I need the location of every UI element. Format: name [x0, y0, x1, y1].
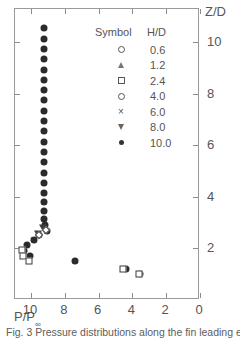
legend-item: 0.6: [95, 42, 193, 58]
data-point: [40, 45, 47, 52]
y-tick-label: 6: [207, 137, 214, 152]
y-tick: [15, 94, 20, 95]
y-tick-right: [193, 197, 198, 198]
data-point: [40, 66, 47, 73]
legend-header-value: H/D: [147, 26, 187, 38]
x-tick-top: [166, 9, 167, 14]
data-point: [40, 159, 47, 166]
data-point: [120, 265, 127, 272]
x-tick-label: 6: [94, 302, 101, 317]
legend-symbol-square-open-icon: [95, 77, 147, 84]
legend-header: Symbol H/D: [95, 26, 193, 38]
data-point: [40, 76, 47, 83]
x-tick-label: 8: [60, 302, 67, 317]
data-point: [40, 179, 47, 186]
x-tick: [65, 293, 66, 298]
x-tick-top: [132, 9, 133, 14]
x-tick-top: [200, 9, 201, 14]
legend-symbol-circle-open-icon: [95, 46, 147, 53]
legend-value: 8.0: [147, 121, 190, 133]
x-tick-label: 4: [128, 302, 135, 317]
data-point: ×: [30, 235, 35, 244]
legend-value: 0.6: [147, 44, 190, 56]
figure-caption: Fig. 3 Pressure distributions along the …: [6, 326, 240, 338]
legend-value: 2.4: [147, 75, 190, 87]
x-tick-label: 0: [195, 302, 202, 317]
data-point: [40, 56, 47, 63]
legend-value: 6.0: [147, 106, 190, 118]
y-tick-right: [193, 145, 198, 146]
legend-header-symbol: Symbol: [95, 26, 147, 38]
data-point: [40, 208, 47, 215]
data-point: [40, 148, 47, 155]
x-tick-top: [65, 9, 66, 14]
y-tick-right: [193, 42, 198, 43]
data-point: [40, 118, 47, 125]
x-tick-label: 2: [162, 302, 169, 317]
data-point: [40, 138, 47, 145]
data-point: [40, 97, 47, 104]
data-point: [40, 25, 47, 32]
legend-item: 10.0: [95, 135, 193, 151]
legend-value: 1.2: [147, 59, 190, 71]
data-point: [40, 107, 47, 114]
x-tick-label: 10: [23, 302, 37, 317]
y-tick-label: 8: [207, 85, 214, 100]
y-tick-label: 10: [207, 34, 221, 49]
data-point: [40, 169, 47, 176]
data-point: [26, 257, 33, 264]
legend-item: 2.4: [95, 73, 193, 89]
x-tick: [132, 293, 133, 298]
y-tick: [15, 42, 20, 43]
data-point: [40, 35, 47, 42]
y-tick: [15, 197, 20, 198]
legend-value: 10.0: [147, 137, 190, 149]
legend-rows: 0.61.22.44.0×6.08.010.0: [95, 42, 193, 151]
x-tick: [200, 293, 201, 298]
data-point: [40, 190, 47, 197]
legend-symbol-circle-filled-icon: [95, 140, 147, 145]
legend: Symbol H/D 0.61.22.44.0×6.08.010.0: [95, 26, 193, 151]
data-point: [71, 258, 78, 265]
y-tick-right: [193, 94, 198, 95]
x-tick: [31, 293, 32, 298]
y-tick-label: 2: [207, 240, 214, 255]
y-tick-right: [193, 248, 198, 249]
x-tick-top: [31, 9, 32, 14]
data-point: [40, 128, 47, 135]
x-tick: [166, 293, 167, 298]
legend-symbol-cross-icon: ×: [95, 107, 147, 117]
legend-symbol-diamond-open-icon: [95, 93, 147, 100]
legend-item: 1.2: [95, 58, 193, 74]
y-axis-title: Z/D: [205, 4, 226, 19]
legend-symbol-triangle-down-open-icon: [95, 124, 147, 130]
data-point: [40, 87, 47, 94]
y-tick: [15, 145, 20, 146]
legend-value: 4.0: [147, 90, 190, 102]
legend-symbol-triangle-up-open-icon: [95, 62, 147, 68]
x-tick: [99, 293, 100, 298]
x-tick-top: [99, 9, 100, 14]
legend-item: ×6.0: [95, 104, 193, 120]
data-point: [136, 270, 143, 277]
legend-item: 4.0: [95, 89, 193, 105]
y-tick-label: 4: [207, 188, 214, 203]
data-point: [40, 199, 47, 206]
legend-item: 8.0: [95, 120, 193, 136]
